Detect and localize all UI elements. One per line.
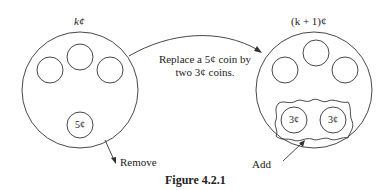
- replace-arrowhead: [254, 46, 262, 53]
- remove-arrow: [105, 140, 114, 160]
- right-title: (k + 1)¢: [291, 15, 327, 28]
- right-coin-2: [303, 40, 329, 66]
- add-label: Add: [252, 158, 271, 171]
- coin-label-3c-b: 3¢: [320, 114, 346, 126]
- left-coin-3: [97, 57, 123, 83]
- coin-label-3c-a: 3¢: [281, 114, 307, 126]
- right-coin-3: [332, 57, 358, 83]
- arrow-label-line1: Replace a 5¢ coin by: [150, 53, 260, 66]
- add-arrow: [283, 143, 302, 161]
- arrow-label-line2: two 3¢ coins.: [150, 66, 260, 79]
- remove-label: Remove: [120, 156, 157, 169]
- right-coin-1: [272, 57, 298, 83]
- right-purse: [256, 32, 372, 148]
- left-coin-2: [67, 44, 93, 70]
- coin-label-5c: 5¢: [67, 119, 93, 131]
- diagram-canvas: [0, 0, 392, 190]
- left-coin-1: [37, 57, 63, 83]
- left-title: k¢: [74, 15, 84, 28]
- remove-arrowhead: [111, 157, 116, 164]
- figure-caption: Figure 4.2.1: [165, 173, 226, 188]
